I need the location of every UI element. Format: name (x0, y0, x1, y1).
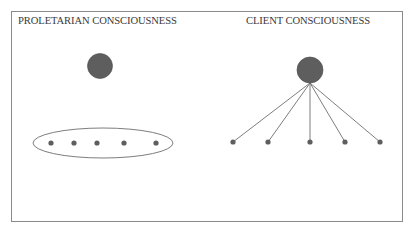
member-node (94, 140, 99, 145)
connection-line (233, 83, 310, 142)
connection-line (310, 83, 380, 142)
member-node (342, 139, 347, 144)
member-node (377, 139, 382, 144)
connection-line (310, 83, 345, 142)
central-node (88, 54, 113, 79)
connection-line (268, 83, 310, 142)
consciousness-diagram (0, 0, 414, 232)
group-ellipse (33, 128, 173, 158)
member-node (71, 140, 76, 145)
member-node (230, 139, 235, 144)
central-node (297, 57, 323, 83)
proletarian-group (33, 54, 173, 159)
member-node (265, 139, 270, 144)
member-node (48, 140, 53, 145)
member-node (307, 139, 312, 144)
member-node (153, 140, 158, 145)
client-group (230, 57, 382, 145)
member-node (121, 140, 126, 145)
